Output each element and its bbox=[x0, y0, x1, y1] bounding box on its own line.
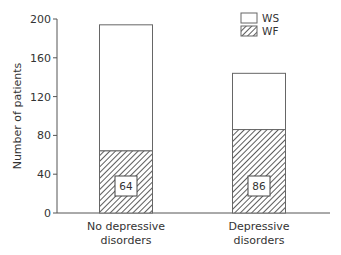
y-tick-label: 0 bbox=[44, 207, 51, 220]
legend-label: WS bbox=[262, 12, 279, 24]
bar-group: 86Depressivedisorders bbox=[228, 73, 289, 247]
bar-ws-segment bbox=[233, 73, 286, 129]
ws-legend-swatch bbox=[241, 13, 257, 23]
value-label: 86 bbox=[252, 180, 266, 192]
x-category-label: Depressive bbox=[228, 220, 289, 233]
stacked-bar-chart: 04080120160200Number of patients 64No de… bbox=[0, 0, 341, 255]
y-tick-label: 120 bbox=[30, 91, 51, 104]
bar-ws-segment bbox=[100, 25, 153, 151]
wf-legend-swatch bbox=[241, 26, 257, 36]
y-tick-label: 40 bbox=[37, 168, 51, 181]
value-label: 64 bbox=[119, 180, 133, 192]
x-category-label: disorders bbox=[101, 234, 152, 247]
y-tick-label: 200 bbox=[30, 13, 51, 26]
x-category-label: disorders bbox=[234, 234, 285, 247]
y-axis-label: Number of patients bbox=[11, 62, 24, 169]
x-category-label: No depressive bbox=[87, 220, 165, 233]
y-tick-label: 80 bbox=[37, 129, 51, 142]
legend: WSWF bbox=[241, 12, 279, 37]
legend-label: WF bbox=[262, 25, 278, 37]
bars: 64No depressivedisorders86Depressivediso… bbox=[87, 25, 290, 247]
bar-wf-segment bbox=[233, 130, 286, 213]
bar-group: 64No depressivedisorders bbox=[87, 25, 165, 247]
y-tick-label: 160 bbox=[30, 52, 51, 65]
